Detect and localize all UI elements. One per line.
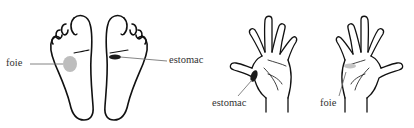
- left-foot-liver-zone: [63, 56, 77, 72]
- estomac-hand-label: estomac: [212, 98, 246, 109]
- right-foot: [105, 16, 148, 120]
- foie-hand-label: foie: [320, 98, 336, 109]
- right-foot-stomach-zone: [109, 54, 121, 59]
- diagram-artwork: [0, 0, 414, 128]
- right-hand-liver-zone: [344, 63, 356, 68]
- estomac-hand-leader-line: [238, 80, 252, 96]
- estomac-foot-label: estomac: [169, 55, 203, 66]
- estomac-foot-leader-line: [120, 57, 167, 61]
- reflexology-diagram: foie estomac estomac foie: [0, 0, 414, 128]
- foie-foot-label: foie: [6, 58, 22, 69]
